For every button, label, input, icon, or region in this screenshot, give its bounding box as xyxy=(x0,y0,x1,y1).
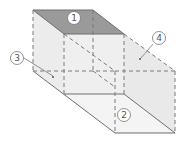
label-3: 3 xyxy=(11,52,24,65)
label-1-text: 1 xyxy=(71,13,77,23)
marker-dot-3 xyxy=(52,76,54,78)
prism-diagram: 1 2 3 4 xyxy=(0,0,185,144)
marker-dot-4 xyxy=(139,58,141,60)
label-1: 1 xyxy=(68,12,81,25)
label-2: 2 xyxy=(118,109,131,122)
label-3-text: 3 xyxy=(14,53,20,63)
label-4: 4 xyxy=(153,32,166,45)
label-2-text: 2 xyxy=(121,110,127,120)
label-4-text: 4 xyxy=(156,33,162,43)
